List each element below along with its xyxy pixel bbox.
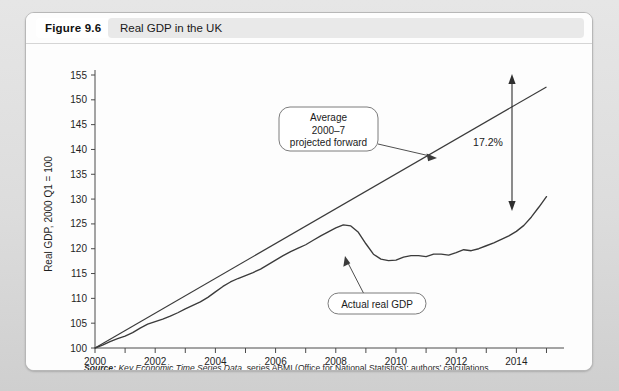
source-lead: Source:: [84, 363, 116, 371]
gap-arrow-head-top: [508, 74, 515, 84]
y-tick-label: 100: [70, 343, 87, 354]
y-tick-label: 145: [70, 119, 87, 130]
y-axis-tick-labels: 100105110115120125130135140145150155: [70, 70, 87, 354]
y-tick-label: 140: [70, 144, 87, 155]
y-tick-label: 150: [70, 94, 87, 105]
figure-title: Real GDP in the UK: [108, 18, 584, 38]
trend-callout-line1: Average: [310, 112, 348, 123]
trend-callout: Average 2000–7 projected forward: [279, 107, 437, 161]
gdp-line-chart: 100105110115120125130135140145150155 200…: [26, 44, 592, 370]
y-tick-label: 110: [71, 293, 87, 304]
trend-callout-leader: [378, 144, 430, 156]
actual-callout-leader: [348, 263, 365, 296]
source-rest: series ABMI (Office for National Statist…: [244, 363, 488, 371]
trend-callout-line3: projected forward: [290, 137, 367, 148]
y-axis-title: Real GDP, 2000 Q1 = 100: [43, 156, 54, 272]
source-note: Source: Key Economic Time Series Data, s…: [84, 363, 488, 371]
y-tick-label: 105: [70, 318, 87, 329]
page-background: Figure 9.6 Real GDP in the UK 1001051101…: [0, 0, 619, 391]
y-tick-label: 155: [70, 70, 87, 81]
actual-callout: Actual real GDP: [328, 256, 426, 314]
figure-number-badge: Figure 9.6: [36, 18, 110, 38]
x-tick-label: 2014: [505, 356, 528, 367]
y-tick-label: 120: [70, 243, 87, 254]
gap-arrow-head-bottom: [508, 201, 515, 211]
trend-callout-arrowhead: [427, 154, 437, 162]
actual-gdp-series: [95, 197, 546, 348]
actual-callout-label: Actual real GDP: [341, 299, 413, 310]
figure-header: Figure 9.6 Real GDP in the UK: [26, 13, 592, 43]
y-tick-label: 125: [70, 218, 87, 229]
figure-card: Figure 9.6 Real GDP in the UK 1001051101…: [25, 12, 593, 371]
gap-percent-label: 17.2%: [473, 136, 503, 148]
chart-container: 100105110115120125130135140145150155 200…: [26, 44, 592, 370]
y-tick-label: 130: [70, 194, 87, 205]
gap-annotation: 17.2%: [473, 74, 515, 211]
y-tick-label: 135: [70, 169, 87, 180]
y-tick-label: 115: [71, 268, 87, 279]
source-dataset: Key Economic Time Series Data,: [116, 363, 244, 371]
trend-callout-line2: 2000–7: [312, 125, 346, 136]
